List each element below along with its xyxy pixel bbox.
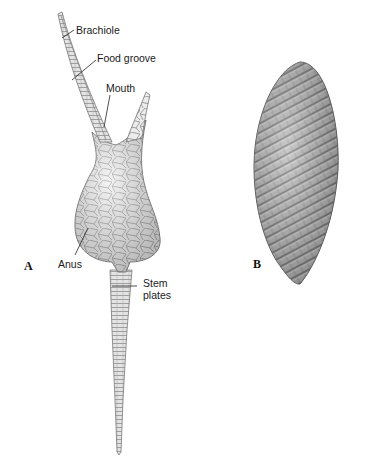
label-stem-plates-line2: plates	[143, 289, 171, 301]
mouth-leader	[104, 95, 110, 127]
panel-b-organism	[254, 62, 338, 284]
brachiole-right	[126, 92, 150, 142]
label-mouth: Mouth	[106, 82, 135, 94]
figure-canvas	[0, 0, 374, 468]
stem	[110, 270, 132, 455]
label-brachiole: Brachiole	[76, 24, 120, 36]
panel-b-letter: B	[253, 257, 261, 272]
label-food-groove: Food groove	[97, 52, 156, 64]
panel-a-letter: A	[24, 259, 33, 274]
label-anus: Anus	[58, 258, 82, 270]
panel-a-organism	[58, 12, 160, 455]
label-stem-plates-line1: Stem	[143, 277, 168, 289]
